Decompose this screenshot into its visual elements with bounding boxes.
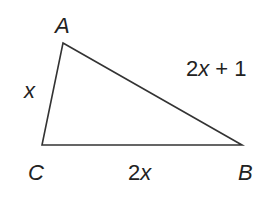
side-label-ab-rest: + 1: [209, 56, 246, 81]
vertex-label-c: C: [28, 160, 44, 185]
triangle-diagram: A C B x 2x + 1 2x: [0, 0, 275, 197]
side-label-cb-coef: 2: [128, 160, 140, 185]
side-label-ac: x: [23, 78, 36, 103]
vertex-label-a: A: [53, 13, 70, 38]
side-label-ab: 2x + 1: [186, 56, 247, 81]
vertex-label-b: B: [238, 160, 253, 185]
side-label-ab-coef: 2: [186, 56, 198, 81]
side-label-cb-var: x: [139, 160, 152, 185]
side-label-cb: 2x: [128, 160, 152, 185]
